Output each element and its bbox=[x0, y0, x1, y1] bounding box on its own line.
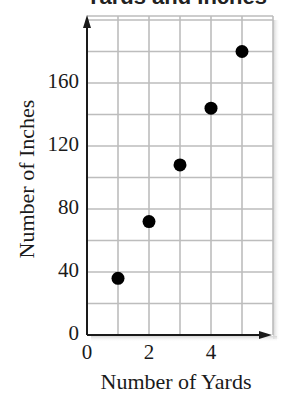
x-axis-label: Number of Yards bbox=[101, 369, 252, 395]
y-tick-label: 160 bbox=[48, 69, 80, 94]
x-tick-label: 2 bbox=[144, 340, 155, 365]
x-tick-label: 0 bbox=[82, 340, 93, 365]
y-tick-label: 80 bbox=[58, 195, 79, 220]
y-tick-label: 0 bbox=[69, 321, 80, 346]
data-point bbox=[112, 272, 125, 285]
grid-shadow bbox=[91, 20, 280, 342]
y-axis-label: Number of Inches bbox=[14, 100, 40, 259]
scatter-chart: Yards and Inches 04080120160 024 Number … bbox=[0, 0, 288, 413]
grid-lines bbox=[87, 16, 273, 335]
data-point bbox=[174, 158, 187, 171]
y-tick-label: 40 bbox=[58, 258, 79, 283]
y-tick-label: 120 bbox=[48, 132, 80, 157]
x-tick-label: 4 bbox=[206, 340, 217, 365]
data-point bbox=[236, 45, 249, 58]
data-point bbox=[205, 102, 218, 115]
data-point bbox=[143, 215, 156, 228]
